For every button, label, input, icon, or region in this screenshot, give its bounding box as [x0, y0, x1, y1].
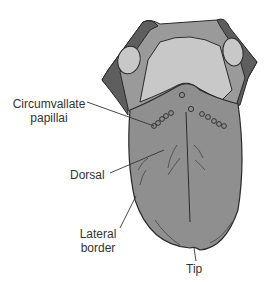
label-tip: Tip — [186, 262, 202, 276]
label-lateral-border: Lateral border — [78, 227, 118, 255]
tongue-diagram — [0, 0, 270, 282]
tongue-body — [129, 84, 242, 250]
label-circumvallate: Circumvallate papillai — [8, 97, 90, 125]
label-dorsal: Dorsal — [70, 168, 105, 182]
